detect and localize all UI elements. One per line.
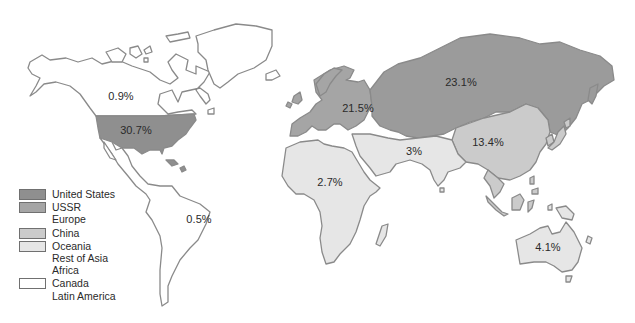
region-arctic-island-5 [144,58,148,62]
legend-label: Canada [52,277,116,289]
region-philippines [530,176,534,184]
region-island-small [548,204,552,210]
legend-swatch-ussr-europe [19,202,46,213]
label-canada: 0.9% [108,90,133,102]
region-greenland [196,24,272,88]
region-new-zealand [586,236,592,244]
legend-item-china: China [19,227,116,239]
legend-swatch-united-states [19,189,46,200]
region-arctic-island-4 [166,32,190,42]
world-map-figure: 0.9% 30.7% 0.5% 21.5% 23.1% 13.4% 3% 2.7… [0,0,635,323]
legend-label: Oceania [52,240,108,252]
region-uk [292,92,302,104]
region-tasmania [566,276,572,282]
region-borneo [512,194,524,210]
region-philippines-2 [532,188,538,194]
legend-label: Europe [52,213,86,225]
label-china: 13.4% [472,136,504,148]
legend-label: Rest of Asia [52,252,108,264]
legend-item-canada-latin-america: Canada Latin America [19,277,116,301]
legend-item-oceania-asia-africa: Oceania Rest of Asia Africa [19,240,116,277]
region-madagascar [376,224,388,246]
legend-label: Africa [52,264,108,276]
legend-swatch-canada-latin-america [19,278,46,289]
region-ireland [286,102,292,108]
region-sulawesi [528,200,534,212]
region-newfoundland [208,108,214,114]
legend-swatch-oceania-asia-africa [19,241,46,252]
region-hispaniola [180,166,186,172]
region-cuba [166,160,178,166]
label-united-states: 30.7% [120,124,152,136]
region-arctic-island-1 [106,48,126,62]
region-iceland [266,70,280,80]
label-europe: 21.5% [342,102,374,114]
label-rest-of-asia: 3% [406,145,422,157]
label-ussr: 23.1% [445,76,477,88]
legend-label: USSR [52,201,86,213]
legend-item-united-states: United States [19,188,116,200]
region-sri-lanka [440,188,444,192]
map-legend: United States USSR Europe China Oceania … [19,188,116,303]
label-africa: 2.7% [317,176,342,188]
legend-label: China [52,227,79,239]
label-oceania: 4.1% [535,241,560,253]
region-canada [28,54,210,116]
region-arctic-island-2 [130,46,142,58]
region-new-guinea [556,206,574,220]
label-latin-america: 0.5% [186,213,211,225]
legend-label: United States [52,188,115,200]
region-sumatra [486,196,508,216]
legend-swatch-china [19,228,46,239]
legend-label: Latin America [52,290,116,302]
region-arctic-island-3 [144,46,152,54]
legend-item-ussr-europe: USSR Europe [19,201,116,225]
